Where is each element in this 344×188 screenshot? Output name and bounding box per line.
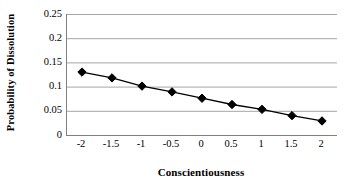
x-tick-label: -1.5 <box>103 139 120 150</box>
chart-canvas <box>67 14 337 135</box>
x-tick-label: 1 <box>258 139 263 150</box>
y-axis-tick-labels: 00.050.10.150.20.25 <box>24 0 62 188</box>
x-tick-label: -2 <box>77 139 86 150</box>
data-point-marker <box>138 82 146 90</box>
data-point-marker <box>198 94 206 102</box>
x-tick-label: -0.5 <box>163 139 180 150</box>
y-tick-label: 0.15 <box>26 57 62 68</box>
y-tick-label: 0.05 <box>26 105 62 116</box>
data-point-marker <box>288 111 296 119</box>
y-tick-label: 0 <box>26 130 62 141</box>
data-point-marker <box>258 105 266 113</box>
x-axis-tick-labels: -2-1.5-1-0.500.511.52 <box>66 139 336 155</box>
y-tick-label: 0.1 <box>26 81 62 92</box>
x-tick-label: -1 <box>137 139 146 150</box>
y-tick-label: 0.2 <box>26 33 62 44</box>
data-point-marker <box>108 74 116 82</box>
y-tick-label: 0.25 <box>26 9 62 20</box>
data-point-marker <box>168 88 176 96</box>
y-axis-title: Probability of Dissolution <box>0 0 22 145</box>
x-tick-label: 2 <box>318 139 323 150</box>
data-point-marker <box>78 68 86 76</box>
chart-figure: Probability of Dissolution 00.050.10.150… <box>0 0 344 188</box>
plot-area <box>66 14 337 136</box>
data-point-marker <box>228 100 236 108</box>
y-axis-title-text: Probability of Dissolution <box>6 14 17 131</box>
x-tick-label: 1.5 <box>284 139 297 150</box>
data-markers <box>78 68 326 125</box>
x-tick-label: 0 <box>198 139 203 150</box>
x-axis-title: Conscientiousness <box>66 166 336 178</box>
data-point-marker <box>318 117 326 125</box>
x-tick-label: 0.5 <box>224 139 237 150</box>
